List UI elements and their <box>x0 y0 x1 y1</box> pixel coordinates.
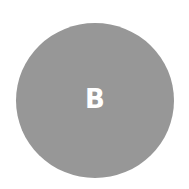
avatar-initial: B <box>85 86 105 112</box>
avatar: B <box>16 23 174 178</box>
